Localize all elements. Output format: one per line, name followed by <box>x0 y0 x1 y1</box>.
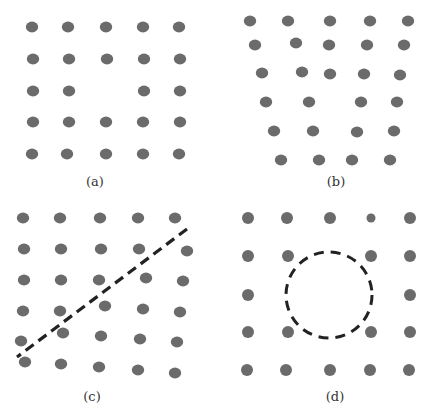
dot <box>138 86 150 97</box>
dot <box>134 334 146 345</box>
dot <box>324 16 336 27</box>
dot <box>18 244 30 255</box>
dot <box>27 117 39 128</box>
figure-canvas <box>0 0 432 418</box>
dot <box>365 250 377 262</box>
dot <box>55 275 67 286</box>
dot <box>54 306 66 317</box>
dot <box>280 364 292 376</box>
dot <box>17 306 29 317</box>
dot <box>99 301 111 312</box>
dot <box>391 97 403 108</box>
dot <box>54 213 66 224</box>
dot <box>367 214 376 223</box>
dot <box>15 336 27 347</box>
dot <box>94 213 106 224</box>
dot <box>62 22 74 33</box>
dot <box>93 275 105 286</box>
dot <box>169 368 181 379</box>
dot <box>55 359 67 370</box>
dot <box>313 155 325 166</box>
dot <box>324 212 336 224</box>
dot <box>174 307 186 318</box>
dot <box>132 213 144 224</box>
dot <box>404 289 416 301</box>
panel-a-dot-grid <box>26 22 186 160</box>
dot <box>361 40 373 51</box>
dot <box>173 149 185 160</box>
dot <box>402 16 414 27</box>
dot <box>173 22 185 33</box>
dot <box>388 126 400 137</box>
dot <box>181 246 193 257</box>
dot <box>27 54 39 65</box>
dot <box>57 328 69 339</box>
dot <box>398 40 410 51</box>
dot <box>100 22 112 33</box>
dot <box>241 364 253 376</box>
dot <box>137 117 149 128</box>
dot <box>296 67 308 78</box>
dot <box>171 337 183 348</box>
panel-label-d: (d) <box>326 389 344 404</box>
dot <box>133 244 145 255</box>
dot <box>242 289 254 301</box>
panel-label-b: (b) <box>327 174 345 189</box>
dashed-circle <box>286 252 372 338</box>
dot <box>249 40 261 51</box>
dot <box>174 86 186 97</box>
dot <box>18 275 30 286</box>
dot <box>323 40 335 51</box>
dot <box>27 86 39 97</box>
panel-d-circle-gap-grid <box>241 212 416 376</box>
dot <box>63 117 75 128</box>
dot <box>101 54 113 65</box>
dot <box>282 250 294 262</box>
dot <box>132 365 144 376</box>
dot <box>268 126 280 137</box>
dot <box>63 86 75 97</box>
dot <box>137 149 149 160</box>
dot <box>169 213 181 224</box>
dot <box>242 250 254 262</box>
dot <box>242 326 254 338</box>
dot <box>282 326 294 338</box>
dot <box>290 38 302 49</box>
dot <box>403 364 415 376</box>
dot <box>355 97 367 108</box>
dot <box>256 68 268 79</box>
dot <box>100 117 112 128</box>
dot <box>364 364 376 376</box>
dot <box>324 69 336 80</box>
dot <box>95 331 107 342</box>
dot <box>404 212 416 224</box>
dot <box>61 149 73 160</box>
dot <box>260 97 272 108</box>
dot <box>140 273 152 284</box>
panel-label-a: (a) <box>86 174 104 189</box>
dot <box>177 276 189 287</box>
dot <box>351 127 363 138</box>
dot <box>365 326 377 338</box>
dot <box>17 213 29 224</box>
dot <box>95 244 107 255</box>
dot <box>404 250 416 262</box>
dot <box>63 54 75 65</box>
dot <box>275 155 287 166</box>
dot <box>384 155 396 166</box>
dot <box>307 126 319 137</box>
dot <box>303 97 315 108</box>
dot <box>394 70 406 81</box>
panel-label-c: (c) <box>83 389 100 404</box>
dot <box>93 362 105 373</box>
dot <box>358 69 370 80</box>
dot <box>19 357 31 368</box>
dot <box>244 16 256 27</box>
panel-b-trapezoid-dots <box>244 16 414 166</box>
dot <box>174 117 186 128</box>
dot <box>324 364 336 376</box>
dot <box>26 149 38 160</box>
dot <box>282 16 294 27</box>
dot <box>281 212 293 224</box>
dot <box>364 16 376 27</box>
